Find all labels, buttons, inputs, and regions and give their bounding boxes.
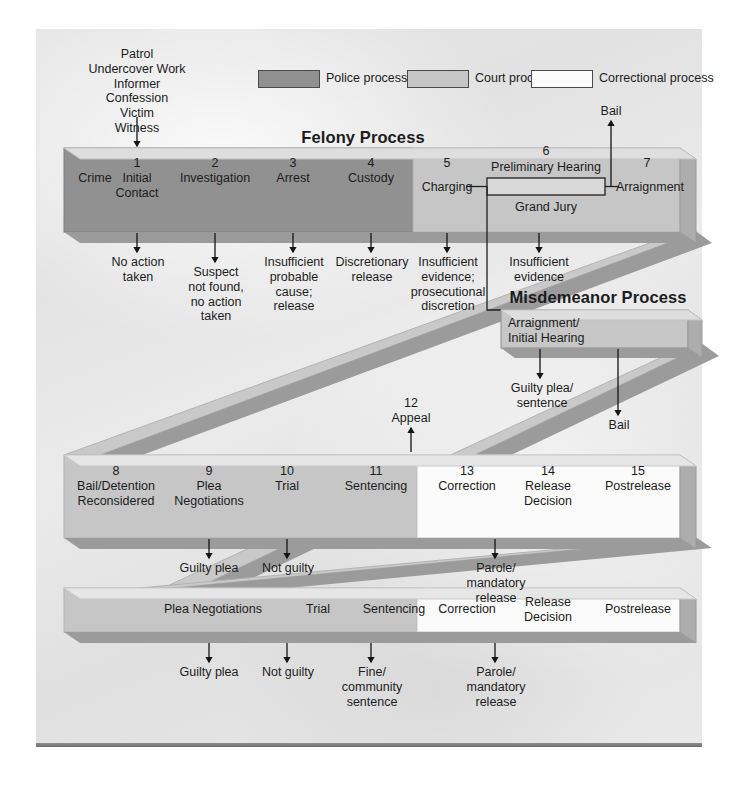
misdemeanor-exit-guilty-plea: Guilty plea/ sentence <box>497 381 587 411</box>
middle-step-14-label[interactable]: Release Decision <box>510 479 586 509</box>
felony-exit-3: Insufficient probable cause; release <box>252 255 336 314</box>
middle-step-11-number: 11 <box>336 464 416 479</box>
felony-step-1-label[interactable]: Initial Contact <box>101 171 173 201</box>
middle-step-10-label[interactable]: Trial <box>256 479 318 494</box>
bottom-step-release-decision[interactable]: Release Decision <box>510 595 586 625</box>
bottom-exit-not-guilty: Not guilty <box>248 665 328 680</box>
misdemeanor-process-title: Misdemeanor Process <box>488 288 708 307</box>
misdemeanor-box-label[interactable]: Arraignment/ Initial Hearing <box>508 316 668 346</box>
felony-step-5-number: 5 <box>419 156 475 171</box>
felony-step-3-label[interactable]: Arrest <box>261 171 325 186</box>
appeal-label: Appeal <box>383 411 439 426</box>
felony-bail-label: Bail <box>586 104 636 119</box>
crime-input-sources: Patrol Undercover Work Informer Confessi… <box>62 47 212 136</box>
legend-swatch-correctional <box>531 70 593 88</box>
bottom-exit-guilty-plea: Guilty plea <box>169 665 249 680</box>
legend-swatch-police <box>258 70 320 88</box>
middle-step-9-number: 9 <box>172 464 246 479</box>
felony-process-title: Felony Process <box>263 128 463 147</box>
middle-step-15-label[interactable]: Postrelease <box>594 479 682 494</box>
middle-exit-not-guilty: Not guilty <box>248 561 328 576</box>
middle-step-13-label[interactable]: Correction <box>424 479 510 494</box>
middle-exit-guilty-plea: Guilty plea <box>169 561 249 576</box>
middle-step-9-label[interactable]: Plea Negotiations <box>164 479 254 509</box>
middle-step-13-number: 13 <box>427 464 507 479</box>
middle-step-11-label[interactable]: Sentencing <box>331 479 421 494</box>
felony-step-2-number: 2 <box>180 156 250 171</box>
felony-step-4-label[interactable]: Custody <box>337 171 405 186</box>
felony-exit-1: No action taken <box>99 255 177 285</box>
felony-exit-2: Suspect not found, no action taken <box>175 265 257 324</box>
bottom-exit-fine: Fine/ community sentence <box>331 665 413 709</box>
felony-exit-5: Insufficient evidence; prosecutional dis… <box>403 255 493 314</box>
felony-step-5-label[interactable]: Charging <box>409 180 485 195</box>
legend-label-correctional: Correctional process <box>599 71 729 86</box>
legend-swatch-court <box>407 70 469 88</box>
middle-step-15-number: 15 <box>598 464 678 479</box>
bottom-step-trial[interactable]: Trial <box>287 602 349 617</box>
bottom-step-postrelease[interactable]: Postrelease <box>594 602 682 617</box>
felony-step-7-label[interactable]: Arraignment <box>612 180 688 195</box>
middle-step-8-number: 8 <box>76 464 156 479</box>
felony-step-6-number: 6 <box>518 144 574 159</box>
felony-step-1-number: 1 <box>109 156 165 171</box>
middle-step-10-number: 10 <box>256 464 318 479</box>
felony-step-6-label[interactable]: Preliminary Hearing <box>483 160 609 175</box>
middle-step-14-number: 14 <box>512 464 584 479</box>
bottom-step-correction[interactable]: Correction <box>424 602 510 617</box>
bottom-exit-parole: Parole/ mandatory release <box>452 665 540 709</box>
flowchart-text-layer: Patrol Undercover Work Informer Confessi… <box>0 0 736 798</box>
middle-step-8-label[interactable]: Bail/Detention Reconsidered <box>66 479 166 509</box>
felony-step-2-label[interactable]: Investigation <box>168 171 262 186</box>
felony-step-4-number: 4 <box>343 156 399 171</box>
felony-step-7-number: 7 <box>624 156 670 171</box>
felony-step-3-number: 3 <box>265 156 321 171</box>
felony-exit-6: Insufficient evidence <box>497 255 581 285</box>
bottom-step-plea-negotiations[interactable]: Plea Negotiations <box>150 602 276 617</box>
grand-jury-label[interactable]: Grand Jury <box>500 200 592 215</box>
appeal-number: 12 <box>386 396 436 411</box>
misdemeanor-exit-bail: Bail <box>594 418 644 433</box>
